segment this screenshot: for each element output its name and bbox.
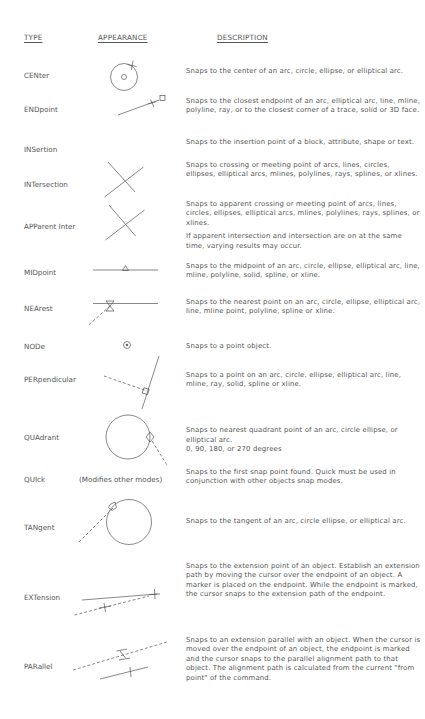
description-perpendicular: Snaps to a point on an arc, circle, elli…: [186, 371, 421, 390]
nearest-snap-icon: [88, 301, 159, 326]
tangent-snap-icon: [79, 500, 152, 545]
description-node: Snaps to a point object.: [186, 342, 421, 351]
extension-snap-icon: [75, 589, 161, 615]
description-nearest: Snaps to the nearest point on an arc, ci…: [186, 298, 421, 317]
description-midpoint: Snaps to the midpoint of an arc, circle,…: [186, 262, 421, 281]
description-apparent-intersection: Snaps to apparent crossing or meeting po…: [186, 200, 421, 251]
description-tangent: Snaps to the tangent of an arc, circle e…: [186, 517, 421, 526]
description-endpoint: Snaps to the closest endpoint of an arc,…: [186, 97, 421, 116]
endpoint-snap-icon: [118, 96, 165, 116]
description-extension: Snaps to the extension point of an objec…: [186, 562, 421, 600]
parallel-snap-icon: [73, 642, 167, 679]
node-snap-icon: [124, 342, 131, 349]
description-parallel: Snaps to an extension parallel with an o…: [186, 636, 421, 683]
perpendicular-snap-icon: [104, 356, 159, 409]
description-center: Snaps to the center of an arc, circle, e…: [186, 67, 421, 76]
quadrant-snap-icon: [106, 415, 167, 465]
description-quick: Snaps to the first snap point found. Qui…: [186, 468, 421, 487]
intersection-snap-icon: [105, 162, 144, 197]
center-snap-icon: [111, 61, 138, 91]
description-quadrant: Snaps to nearest quadrant point of an ar…: [186, 417, 421, 464]
apparent-intersection-snap-icon: [106, 205, 145, 240]
description-intersection: Snaps to crossing or meeting point of ar…: [186, 161, 421, 180]
midpoint-snap-icon: [93, 266, 158, 271]
description-insertion: Snaps to the insertion point of a block,…: [186, 138, 421, 147]
